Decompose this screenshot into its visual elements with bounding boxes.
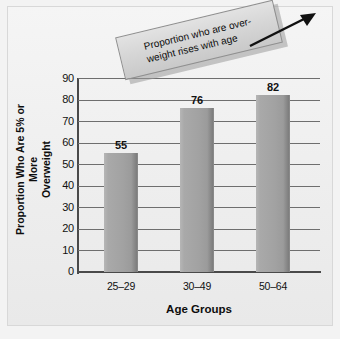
- y-axis-title-line-1: Proportion Who Are 5% or More: [14, 95, 40, 245]
- y-axis-title: Proportion Who Are 5% or More Overweight: [14, 95, 53, 245]
- x-tick-label-25-29: 25–29: [81, 280, 161, 292]
- bar-30-49: [180, 108, 214, 272]
- y-axis-title-line-2: Overweight: [40, 95, 53, 245]
- bar-50-64: [256, 95, 290, 272]
- x-axis-title: Age Groups: [78, 303, 320, 315]
- gridline-90: [78, 78, 320, 79]
- bar-25-29: [104, 153, 138, 272]
- y-tick-label: 10: [48, 244, 74, 256]
- bar-value-label-30-49: 76: [167, 94, 227, 106]
- y-tick-label: 90: [48, 72, 74, 84]
- chart-figure: 90 80 70 60 50 40 30 20 10 0 Proportion …: [0, 0, 340, 339]
- plot-area: [78, 78, 320, 272]
- x-tick-label-50-64: 50–64: [233, 280, 313, 292]
- x-tick-label-30-49: 30–49: [157, 280, 237, 292]
- bar-value-label-25-29: 55: [91, 139, 151, 151]
- annotation-arrow-icon: [246, 6, 324, 54]
- bar-value-label-50-64: 82: [243, 81, 303, 93]
- y-tick-label: 0: [48, 265, 74, 277]
